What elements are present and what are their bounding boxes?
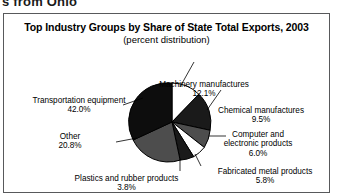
pie-label-transportation-value: 42.0% — [18, 105, 140, 114]
page-heading-fragment: s from Ohio — [2, 0, 77, 10]
leader-line-fabricated — [195, 154, 201, 166]
pie-label-fabricated-name: Fabricated metal products — [200, 167, 330, 176]
pie-label-chemical: Chemical manufactures 9.5% — [206, 106, 316, 125]
pie-label-chemical-value: 9.5% — [206, 115, 316, 124]
pie-label-transportation-name: Transportation equipment — [18, 96, 140, 105]
pie-label-plastics-name: Plastics and rubber products — [59, 174, 194, 183]
pie-label-computer-name-line1: Computer and — [206, 130, 310, 139]
pie-label-machinery-name: Machinery manufactures — [149, 80, 259, 89]
pie-label-computer-value: 6.0% — [206, 149, 310, 158]
pie-label-other-value: 20.8% — [34, 141, 106, 150]
chart-title: Top Industry Groups by Share of State To… — [4, 21, 329, 33]
pie-label-other-name: Other — [34, 132, 106, 141]
pie-label-chemical-name: Chemical manufactures — [206, 106, 316, 115]
pie-label-fabricated: Fabricated metal products 5.8% — [200, 167, 330, 186]
pie-chart-plot: Machinery manufactures 12.1% Chemical ma… — [4, 44, 329, 192]
pie-label-machinery: Machinery manufactures 12.1% — [149, 80, 259, 99]
figure-container: s from Ohio Top Industry Groups by Share… — [0, 0, 346, 196]
pie-label-other: Other 20.8% — [34, 132, 106, 151]
pie-label-computer-name-line2: electronic products — [206, 139, 310, 148]
chart-figure-box: Top Industry Groups by Share of State To… — [3, 13, 330, 193]
pie-label-machinery-value: 12.1% — [149, 89, 259, 98]
pie-label-plastics: Plastics and rubber products 3.8% — [59, 174, 194, 193]
pie-label-transportation: Transportation equipment 42.0% — [18, 96, 140, 115]
pie-label-plastics-value: 3.8% — [59, 183, 194, 192]
pie-label-computer: Computer and electronic products 6.0% — [206, 130, 310, 158]
pie-label-fabricated-value: 5.8% — [200, 176, 330, 185]
